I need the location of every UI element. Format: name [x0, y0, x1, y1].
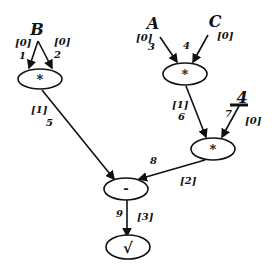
- edge-6-id: 6: [178, 111, 185, 122]
- edge-8-level: [2]: [180, 175, 197, 186]
- edge-2: [38, 41, 52, 68]
- edge-8-id: 8: [150, 155, 157, 166]
- edge-1-id: 1: [19, 50, 26, 61]
- op-label: *: [210, 142, 217, 157]
- edge-5-id: 5: [46, 117, 53, 128]
- variable-c: C: [209, 12, 222, 31]
- edge-7-id: 7: [225, 108, 232, 119]
- op-label: *: [182, 67, 189, 82]
- edge-2-level: [0]: [54, 36, 71, 47]
- edge-9-id: 9: [116, 208, 123, 219]
- edge-5-level: [1]: [31, 104, 48, 115]
- edge-4: [193, 35, 208, 62]
- variable-a: A: [145, 14, 159, 33]
- op-label: *: [37, 72, 44, 87]
- edge-2-id: 2: [53, 49, 61, 60]
- sqrt-icon: √: [123, 239, 133, 257]
- edge-4-id: 4: [183, 40, 190, 51]
- edge-6: [186, 86, 206, 137]
- edge-3: [160, 37, 177, 62]
- edge-4-level: [0]: [217, 30, 234, 41]
- op-label: -: [123, 181, 128, 196]
- edge-7-level: [0]: [245, 115, 262, 126]
- edge-3-id: 3: [148, 41, 155, 52]
- edge-5: [42, 90, 114, 179]
- edge-9-level: [3]: [137, 211, 154, 222]
- edge-1-level: [0]: [15, 37, 32, 48]
- graph-svg: * * * - √ B A C 4 [0] 1 [0] 2 [0] 3 4 [0…: [0, 0, 273, 273]
- expression-graph: * * * - √ B A C 4 [0] 1 [0] 2 [0] 3 4 [0…: [0, 0, 273, 273]
- edge-6-level: [1]: [172, 99, 189, 110]
- constant-4: 4: [236, 88, 247, 107]
